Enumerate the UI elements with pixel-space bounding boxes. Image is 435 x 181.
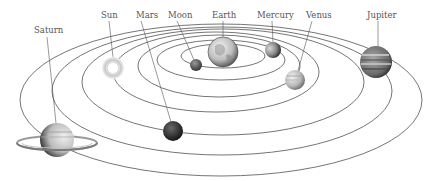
label-mercury: Mercury [257, 10, 294, 20]
moon-body [190, 59, 202, 71]
mercury-leader [272, 21, 273, 42]
earth [208, 37, 238, 67]
venus-leader [297, 21, 312, 74]
label-mars: Mars [136, 10, 158, 20]
saturn-body [40, 123, 74, 157]
label-sun: Sun [101, 10, 118, 20]
leader-lines [47, 21, 378, 123]
label-earth: Earth [212, 10, 237, 20]
mars-leader [141, 21, 171, 122]
moon-leader [177, 21, 194, 60]
saturn [17, 123, 97, 157]
sun-glow-icon [101, 56, 125, 80]
jupiter [360, 46, 392, 78]
jupiter-body [360, 46, 392, 78]
mars-body [163, 121, 183, 141]
label-jupiter: Jupiter [366, 10, 397, 20]
venus [285, 70, 305, 90]
label-saturn: Saturn [34, 25, 64, 35]
labels: Saturn Sun Mars Moon Earth Mercury Venus… [34, 10, 397, 35]
mercury-body [265, 42, 281, 58]
sun [101, 56, 125, 80]
solar-system-diagram: Saturn Sun Mars Moon Earth Mercury Venus… [0, 0, 435, 181]
label-moon: Moon [168, 10, 193, 20]
label-venus: Venus [305, 10, 332, 20]
